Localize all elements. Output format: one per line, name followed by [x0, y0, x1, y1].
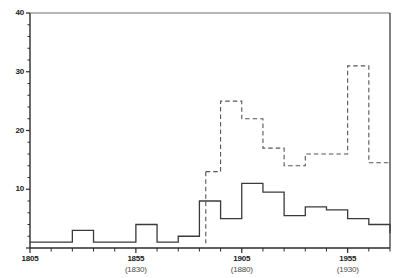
- x-tick-label-1805: 1805: [10, 254, 50, 263]
- chart-container: 10203040 18051855(1830)1905(1880)1955(19…: [0, 0, 414, 278]
- x-tick-label-1905: 1905: [222, 254, 262, 263]
- tick-marks: [26, 13, 390, 253]
- x-tick-label-1855: 1855: [116, 254, 156, 263]
- data-series-group: [30, 66, 390, 243]
- axis-lines: [30, 13, 390, 248]
- y-tick-label-10: 10: [2, 184, 24, 193]
- series-line-solid-step-series: [30, 183, 390, 242]
- series-line-dashed-step-series: [206, 66, 390, 172]
- y-tick-label-20: 20: [2, 126, 24, 135]
- y-tick-label-40: 40: [2, 8, 24, 17]
- chart-plot-area: [0, 0, 414, 278]
- x-tick-sublabel-1955: (1930): [328, 265, 368, 274]
- x-tick-label-1955: 1955: [328, 254, 368, 263]
- x-tick-sublabel-1855: (1830): [116, 265, 156, 274]
- y-tick-label-30: 30: [2, 67, 24, 76]
- x-tick-sublabel-1905: (1880): [222, 265, 262, 274]
